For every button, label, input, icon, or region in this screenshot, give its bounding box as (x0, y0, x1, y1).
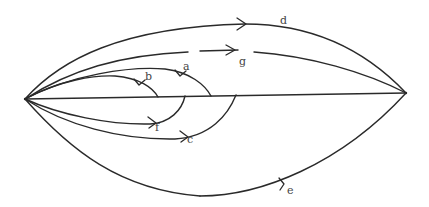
curve-e: e (25, 93, 406, 197)
label-c: c (187, 133, 193, 146)
node-right (405, 92, 407, 94)
node-left (24, 98, 26, 100)
curve-d: d (25, 14, 406, 99)
label-a: a (183, 60, 190, 73)
curve-c: c (25, 95, 236, 146)
label-e: e (287, 184, 294, 197)
curve-g: g (25, 45, 406, 99)
label-b: b (145, 70, 152, 83)
curve-f: f (25, 96, 185, 134)
path-diagram: d g a b f c e (0, 0, 429, 207)
label-d: d (280, 14, 287, 27)
label-g: g (239, 55, 246, 68)
curve-a: a (25, 60, 211, 99)
curve-b: b (25, 70, 158, 99)
horizontal-line (25, 93, 406, 99)
